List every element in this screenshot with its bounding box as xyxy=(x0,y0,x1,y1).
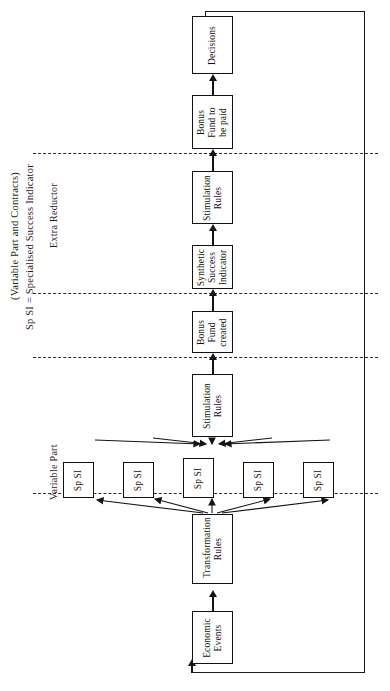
node-sp-si-3-label: Sp SI xyxy=(193,467,204,489)
node-stimulation-rules-lower-label: Stimulation Rules xyxy=(202,383,224,429)
figure-canvas: (Variable Part and Contracts) Sp SI = Sp… xyxy=(0,0,390,691)
node-economic-events[interactable]: Economic Events xyxy=(192,611,233,664)
node-synthetic-success-indicator-label: Synthetic Success Indicator xyxy=(196,248,229,287)
node-sp-si-4-label: Sp SI xyxy=(253,469,264,491)
node-sp-si-4[interactable]: Sp SI xyxy=(243,462,274,498)
arrowhead-transformation-rules xyxy=(209,590,217,597)
node-sp-si-2-label: Sp SI xyxy=(133,469,144,491)
node-bonus-fund-created-label: Bonus Fund created xyxy=(196,313,229,352)
connector-economic-to-transformation xyxy=(212,595,213,611)
node-sp-si-1-label: Sp SI xyxy=(73,469,84,491)
node-sp-si-1[interactable]: Sp SI xyxy=(63,462,94,498)
node-sp-si-2[interactable]: Sp SI xyxy=(123,462,154,498)
node-stimulation-rules-upper-label: Stimulation Rules xyxy=(202,175,224,221)
node-economic-events-label: Economic Events xyxy=(202,618,224,658)
node-sp-si-5-label: Sp SI xyxy=(313,469,324,491)
node-bonus-fund-to-be-paid[interactable]: Bonus Fund to be paid xyxy=(192,95,233,149)
node-sp-si-3[interactable]: Sp SI xyxy=(183,458,214,498)
node-stimulation-rules-lower[interactable]: Stimulation Rules xyxy=(192,374,233,437)
node-stimulation-rules-upper[interactable]: Stimulation Rules xyxy=(192,171,233,224)
node-transformation-rules[interactable]: Transformation Rules xyxy=(192,514,233,584)
node-decisions-label: Decisions xyxy=(207,26,218,65)
node-transformation-rules-label: Transformation Rules xyxy=(202,520,224,578)
node-bonus-fund-created[interactable]: Bonus Fund created xyxy=(192,311,233,353)
node-synthetic-success-indicator[interactable]: Synthetic Success Indicator xyxy=(192,245,233,289)
node-decisions[interactable]: Decisions xyxy=(192,16,233,74)
node-sp-si-5[interactable]: Sp SI xyxy=(303,462,334,498)
node-bonus-fund-to-be-paid-label: Bonus Fund to be paid xyxy=(196,103,229,142)
